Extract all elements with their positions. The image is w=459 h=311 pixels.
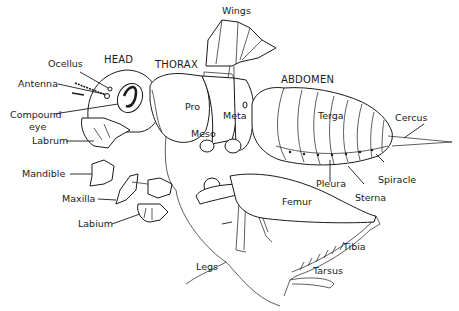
label-meso: Meso [191,129,216,139]
label-maxilla: Maxilla [62,194,95,204]
label-legs: Legs [196,262,218,272]
label-tarsus: Tarsus [313,266,343,276]
label-pleura: Pleura [316,179,346,189]
label-wings: Wings [222,6,251,16]
label-antenna: Antenna [18,79,58,89]
label-compound-eye-line2: eye [29,122,46,132]
label-terga: Terga [318,111,344,121]
insect-drawing [0,0,459,311]
mouthparts-drawing [90,160,172,222]
wings-drawing [206,20,276,78]
label-spiracle: Spiracle [378,175,416,185]
label-abdomen: ABDOMEN [281,75,334,85]
label-thorax: THORAX [155,60,198,70]
label-tibia: Tibia [343,242,366,252]
label-head: HEAD [104,55,133,65]
abdomen-drawing [252,88,452,165]
label-femur: Femur [282,197,312,207]
label-cercus: Cercus [395,113,427,123]
label-labrum: Labrum [32,136,68,146]
label-pro: Pro [185,102,200,112]
insect-anatomy-diagram: Wings HEAD THORAX ABDOMEN Ocellus Antenn… [0,0,459,311]
label-labium: Labium [78,219,113,229]
label-meta: Meta [223,111,247,121]
label-compound-eye-line1: Compound [10,110,62,120]
label-sterna: Sterna [355,193,386,203]
label-mandible: Mandible [22,169,65,179]
label-ocellus: Ocellus [48,59,83,69]
